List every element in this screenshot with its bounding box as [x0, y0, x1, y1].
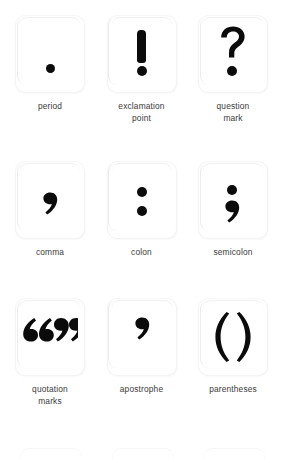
period-dot: [46, 64, 55, 73]
exclamation-stem: [137, 30, 146, 63]
chart-row-2: comma colon semicolon: [0, 162, 283, 259]
symbol-card[interactable]: [16, 162, 84, 238]
parentheses-shape: [213, 311, 253, 363]
colon-dot-lower: [137, 206, 147, 216]
cell-label: colon: [131, 247, 152, 259]
semicolon-tail-shape: [224, 200, 240, 224]
symbol-card[interactable]: [16, 16, 84, 92]
symbol-card[interactable]: [16, 299, 84, 375]
question-dot: [227, 66, 237, 76]
symbol-card[interactable]: [199, 299, 267, 375]
punctuation-cell-apostrophe[interactable]: apostrophe: [106, 299, 178, 407]
quotation-pair-shape: [22, 317, 78, 343]
symbol-card[interactable]: [108, 16, 176, 92]
punctuation-cell-partial[interactable]: [197, 447, 269, 463]
colon-glyph: [108, 162, 176, 238]
punctuation-cell-colon[interactable]: colon: [106, 162, 178, 259]
cell-label: exclamation point: [118, 101, 164, 124]
colon-dot-upper: [137, 187, 147, 197]
cell-label: semicolon: [213, 247, 252, 259]
symbol-card[interactable]: [199, 162, 267, 238]
apostrophe-shape: [134, 317, 150, 341]
comma-shape: [42, 192, 58, 216]
question-hook-shape: [218, 26, 248, 64]
cell-label: question mark: [217, 101, 250, 124]
symbol-card[interactable]: [108, 299, 176, 375]
period-glyph: [16, 16, 84, 92]
apostrophe-glyph: [108, 299, 176, 375]
punctuation-cell-period[interactable]: period: [14, 16, 86, 124]
cell-label: parentheses: [209, 384, 257, 396]
cell-label: quotation marks: [32, 384, 68, 407]
punctuation-cell-parentheses[interactable]: parentheses: [197, 299, 269, 407]
comma-glyph: [16, 162, 84, 238]
symbol-card[interactable]: [199, 16, 267, 92]
cell-label: period: [38, 101, 62, 113]
chart-row-1: period exclamation point question: [0, 16, 283, 124]
parentheses-glyph: [199, 299, 267, 375]
punctuation-cell-comma[interactable]: comma: [14, 162, 86, 259]
cell-label: comma: [36, 247, 64, 259]
punctuation-cell-partial[interactable]: [14, 447, 86, 463]
symbol-card[interactable]: [199, 447, 267, 463]
exclamation-point-glyph: [108, 16, 176, 92]
cell-label: apostrophe: [120, 384, 163, 396]
symbol-card[interactable]: [108, 447, 176, 463]
quotation-marks-glyph: [16, 299, 84, 375]
semicolon-glyph: [199, 162, 267, 238]
punctuation-cell-exclamation-point[interactable]: exclamation point: [106, 16, 178, 124]
semicolon-dot: [227, 185, 237, 195]
punctuation-cell-question-mark[interactable]: question mark: [197, 16, 269, 124]
punctuation-cell-quotation-marks[interactable]: quotation marks: [14, 299, 86, 407]
symbol-card[interactable]: [16, 447, 84, 463]
chart-row-4-partial: [0, 447, 283, 463]
exclamation-dot: [137, 66, 147, 76]
punctuation-cell-semicolon[interactable]: semicolon: [197, 162, 269, 259]
punctuation-cell-partial[interactable]: [106, 447, 178, 463]
chart-row-3: quotation marks apostrophe: [0, 299, 283, 407]
question-mark-glyph: [199, 16, 267, 92]
symbol-card[interactable]: [108, 162, 176, 238]
